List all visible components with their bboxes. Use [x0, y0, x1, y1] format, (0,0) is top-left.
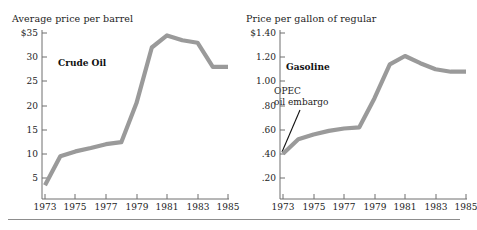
xtick-label-gasoline-6: 1985	[455, 202, 477, 212]
y-ticks-crude-oil	[42, 33, 47, 178]
xtick-label-crude-oil-0: 1973	[34, 202, 57, 212]
footer-rule	[8, 219, 460, 220]
plot-area-gasoline	[234, 0, 468, 230]
xtick-label-gasoline-2: 1977	[333, 202, 356, 212]
x-ticks-crude-oil	[45, 194, 228, 199]
data-line-crude-oil	[45, 35, 228, 185]
xtick-label-gasoline-3: 1979	[364, 202, 387, 212]
chart-panel-gasoline: Price per gallon of regular Gasoline OPE…	[234, 0, 468, 230]
xtick-label-gasoline-5: 1983	[425, 202, 448, 212]
data-line-gasoline	[283, 56, 466, 154]
x-ticks-gasoline	[283, 194, 466, 199]
plot-area-crude-oil	[0, 0, 234, 230]
xtick-label-gasoline-1: 1975	[303, 202, 326, 212]
y-ticks-gasoline	[280, 33, 285, 178]
xtick-label-crude-oil-3: 1979	[126, 202, 149, 212]
xtick-label-crude-oil-2: 1977	[95, 202, 118, 212]
xtick-label-gasoline-0: 1973	[272, 202, 295, 212]
chart-panel-crude-oil: Average price per barrel Crude Oil $35 3…	[0, 0, 234, 230]
xtick-label-crude-oil-4: 1981	[156, 202, 179, 212]
xtick-label-gasoline-4: 1981	[394, 202, 417, 212]
xtick-label-crude-oil-1: 1975	[64, 202, 87, 212]
xtick-label-crude-oil-5: 1983	[187, 202, 210, 212]
